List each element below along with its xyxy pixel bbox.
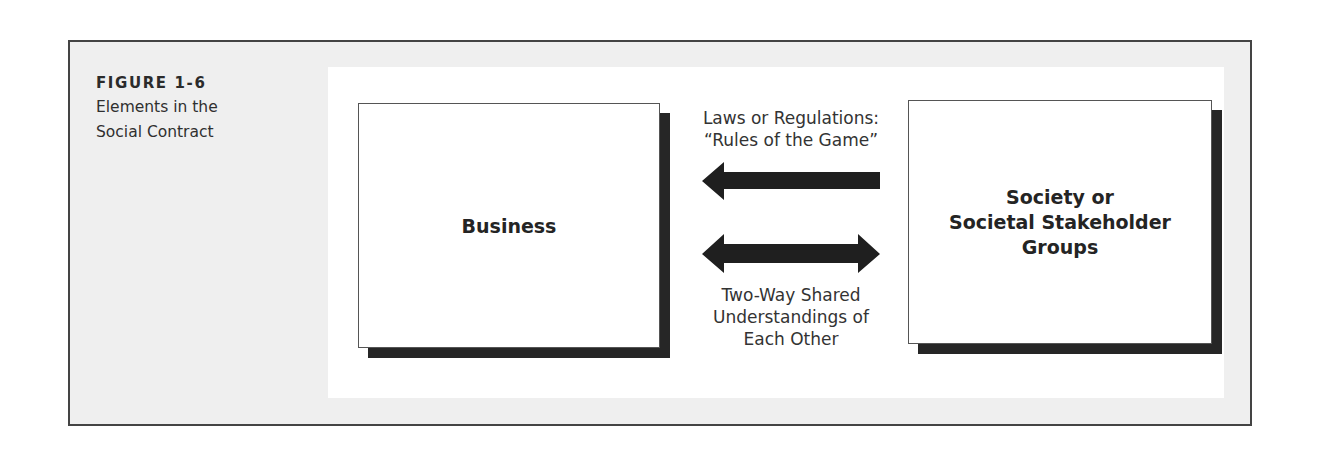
society-label-line-3: Groups [949,235,1171,260]
business-label: Business [462,215,557,237]
two-way-label-line-2: Understandings of [676,306,906,328]
figure-title-line-1: Elements in the [96,95,306,120]
laws-label-line-2: “Rules of the Game” [676,129,906,151]
figure-caption: FIGURE 1-6 Elements in the Social Contra… [96,73,306,145]
society-label-line-2: Societal Stakeholder [949,210,1171,235]
society-label-line-1: Society or [949,185,1171,210]
laws-label-line-1: Laws or Regulations: [676,107,906,129]
double-arrow-icon [700,232,884,276]
two-way-label-line-1: Two-Way Shared [676,284,906,306]
left-arrow-icon [700,160,884,204]
figure-title: Elements in the Social Contract [96,95,306,145]
figure-title-line-2: Social Contract [96,120,306,145]
business-box: Business [358,103,660,348]
society-box: Society or Societal Stakeholder Groups [908,100,1212,344]
society-label: Society or Societal Stakeholder Groups [949,185,1171,260]
two-way-label: Two-Way Shared Understandings of Each Ot… [676,284,906,350]
two-way-label-line-3: Each Other [676,328,906,350]
laws-label: Laws or Regulations: “Rules of the Game” [676,107,906,151]
figure-number: FIGURE 1-6 [96,73,306,93]
